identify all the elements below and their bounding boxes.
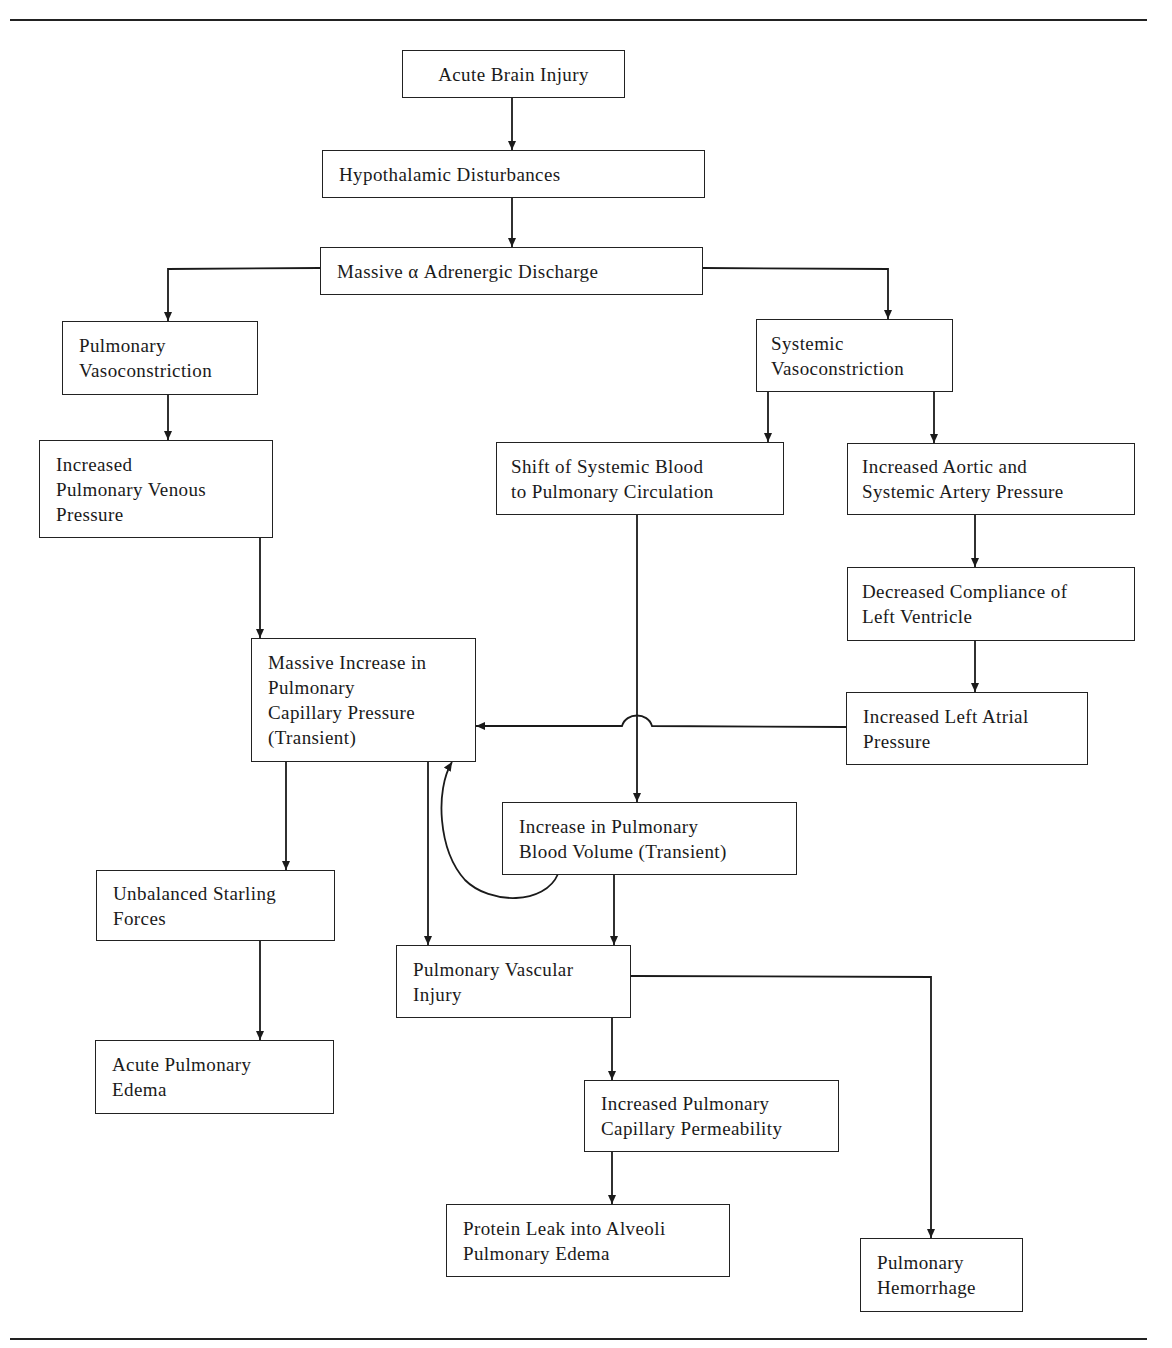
node-unbalanced-starling-forces: Unbalanced Starling Forces <box>96 870 335 941</box>
node-increased-left-atrial-pressure: Increased Left Atrial Pressure <box>846 692 1088 765</box>
node-increase-pulmonary-blood-volume: Increase in Pulmonary Blood Volume (Tran… <box>502 802 797 875</box>
node-protein-leak-edema: Protein Leak into Alveoli Pulmonary Edem… <box>446 1204 730 1277</box>
node-increased-pulmonary-venous-pressure: Increased Pulmonary Venous Pressure <box>39 440 273 538</box>
node-adrenergic-discharge: Massive α Adrenergic Discharge <box>320 247 703 295</box>
arrow-atrial-to-capillary <box>476 716 846 728</box>
bottom-rule <box>10 1338 1147 1340</box>
node-hypothalamic-disturbances: Hypothalamic Disturbances <box>322 150 705 198</box>
node-acute-pulmonary-edema: Acute Pulmonary Edema <box>95 1040 334 1114</box>
arrow-adrenergic-to-pulm-vaso <box>168 268 320 321</box>
node-increased-capillary-permeability: Increased Pulmonary Capillary Permeabili… <box>584 1080 839 1152</box>
node-massive-capillary-pressure: Massive Increase in Pulmonary Capillary … <box>251 638 476 762</box>
node-shift-of-systemic-blood: Shift of Systemic Blood to Pulmonary Cir… <box>496 442 784 515</box>
node-decreased-lv-compliance: Decreased Compliance of Left Ventricle <box>847 567 1135 641</box>
arrow-adrenergic-to-sys-vaso <box>703 268 888 319</box>
node-increased-aortic-pressure: Increased Aortic and Systemic Artery Pre… <box>847 443 1135 515</box>
node-acute-brain-injury: Acute Brain Injury <box>402 50 625 98</box>
node-pulmonary-hemorrhage: Pulmonary Hemorrhage <box>860 1238 1023 1312</box>
top-rule <box>10 19 1147 21</box>
node-pulmonary-vascular-injury: Pulmonary Vascular Injury <box>396 945 631 1018</box>
node-pulmonary-vasoconstriction: Pulmonary Vasoconstriction <box>62 321 258 395</box>
node-systemic-vasoconstriction: Systemic Vasoconstriction <box>756 319 953 392</box>
